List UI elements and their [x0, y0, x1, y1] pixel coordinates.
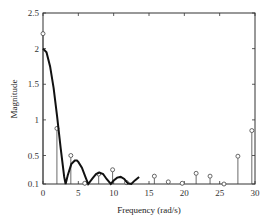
stem-marker	[208, 174, 212, 178]
x-tick-label: 5	[76, 188, 81, 198]
x-tick-label: 15	[145, 188, 155, 198]
y-tick-label: 2	[35, 44, 40, 54]
x-axis-label: Frequency (rad/s)	[117, 205, 181, 215]
plot-area-border	[43, 13, 255, 184]
y-tick-label: 0.5	[28, 151, 40, 161]
stem-marker	[194, 171, 198, 175]
stem-marker	[236, 154, 240, 158]
stem-marker	[111, 168, 115, 172]
stem-marker	[222, 182, 226, 186]
y-tick-label: 1	[35, 115, 40, 125]
magnitude-curve	[43, 49, 139, 184]
x-tick-label: 20	[180, 188, 190, 198]
stem-marker	[69, 154, 73, 158]
x-tick-label: 0	[41, 188, 46, 198]
stem-marker	[83, 181, 87, 185]
x-tick-label: 10	[109, 188, 119, 198]
x-axis-ticks: 051015202530	[41, 13, 260, 198]
stem-marker	[41, 32, 45, 36]
plot-frame	[43, 13, 255, 184]
y-tick-label: 2.5	[28, 8, 40, 18]
stem-marker	[152, 174, 156, 178]
stem-marker	[166, 180, 170, 184]
y-tick-label: 0.1	[28, 179, 39, 189]
stem-marker	[250, 129, 254, 133]
x-tick-label: 30	[251, 188, 261, 198]
stem-marker	[180, 181, 184, 185]
x-tick-label: 25	[215, 188, 225, 198]
chart: 051015202530 0.10.511.522.5 Frequency (r…	[0, 0, 275, 224]
y-axis-label: Magnitude	[9, 80, 19, 119]
y-tick-label: 1.5	[28, 79, 40, 89]
